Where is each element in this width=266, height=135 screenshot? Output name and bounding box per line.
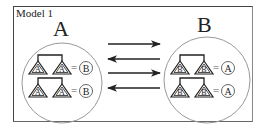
tree-label: A [35, 65, 41, 74]
group-a-rows: AA=BAA=B [29, 55, 93, 98]
tree-label: B [177, 88, 182, 97]
tree-label: A [35, 88, 41, 97]
tree-label: B [201, 65, 206, 74]
tree-connector [180, 55, 204, 61]
result-label: B [83, 86, 90, 97]
equals-sign: = [213, 61, 219, 73]
group-b-rows: BB=ABB=A [171, 55, 235, 98]
result-label: B [83, 63, 90, 74]
tree-label: B [201, 88, 206, 97]
group-b-circle [164, 37, 250, 123]
tree-label: A [59, 65, 65, 74]
tree-label: B [177, 65, 182, 74]
result-label: A [224, 86, 232, 97]
tree-pair-row: BB=A [171, 78, 235, 98]
tree-pair-row: BB=A [171, 55, 235, 75]
tree-connector [180, 78, 204, 84]
arrows [108, 44, 160, 88]
tree-pair-row: AA=B [29, 78, 93, 98]
equals-sign: = [71, 61, 77, 73]
diagram-canvas: AA=BAA=B BB=ABB=A [0, 0, 266, 135]
result-label: A [224, 63, 232, 74]
tree-pair-row: AA=B [29, 55, 93, 75]
tree-connector [38, 55, 62, 61]
equals-sign: = [71, 84, 77, 96]
tree-label: A [59, 88, 65, 97]
tree-connector [38, 78, 62, 84]
equals-sign: = [213, 84, 219, 96]
